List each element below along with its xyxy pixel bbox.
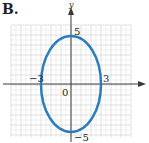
tick-label-x-left: −3 [29, 73, 44, 84]
tick-label-origin: 0 [62, 87, 68, 98]
x-axis-arrow-icon [138, 81, 146, 87]
tick-label-y-top: 5 [74, 26, 80, 37]
tick-label-y-bottom: −5 [74, 132, 89, 143]
ellipse-chart: y 5 −5 3 −3 0 [0, 0, 149, 143]
y-axis-label: y [68, 0, 74, 9]
tick-label-x-right: 3 [103, 73, 109, 84]
